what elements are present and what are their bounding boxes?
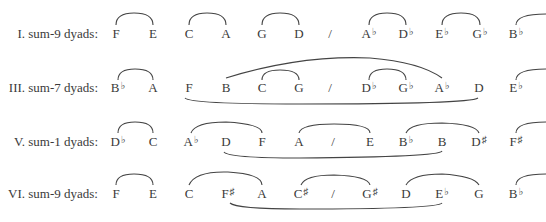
note-name: B♭ [111,80,125,96]
note-name: G [294,80,303,96]
row-label: I. sum-9 dyads: [0,26,98,42]
row-label: III. sum-7 dyads: [0,80,98,96]
note-name: C [185,26,194,42]
note-name: A [221,26,230,42]
arc-icon [116,13,153,25]
flat-icon: ♭ [518,186,523,197]
sharp-icon: ♯ [373,186,378,197]
arc-icon [118,69,153,80]
note-name: E [149,186,157,202]
row-III: III. sum-7 dyads: [0,80,546,120]
note-name: D [294,26,303,42]
flat-icon: ♭ [444,26,449,37]
note-name: G♯ [362,186,377,202]
note-name: B♭ [509,26,523,42]
note-name: D [401,186,410,202]
row-label: V. sum-1 dyads: [0,134,98,150]
flat-icon: ♭ [121,134,126,145]
note-name: D [474,80,483,96]
arc-icon [406,123,479,133]
separator-slash: / [331,186,335,202]
note-name: A♭ [183,134,198,150]
arc-icon [262,13,299,25]
note-name: G [474,186,483,202]
arc-icon [369,69,406,80]
flat-icon: ♭ [409,26,414,37]
sharp-icon: ♯ [230,186,235,197]
arc-icon [189,13,226,25]
flat-icon: ♭ [444,186,449,197]
note-name: D [221,134,230,150]
note-name: E♭ [435,186,449,202]
note-name: D♭ [398,26,413,42]
arc-icon [516,69,546,80]
arc-icon [516,14,546,25]
arc-icon [118,122,153,133]
flat-icon: ♭ [120,80,125,91]
arc-icon [191,122,262,133]
flat-icon: ♭ [409,80,414,91]
note-name: C [149,134,158,150]
row-V: V. sum-1 dyads: [0,134,546,174]
note-name: D♭ [110,134,125,150]
note-name: B♭ [509,186,523,202]
note-name: F♯ [221,186,234,202]
sharp-icon: ♯ [518,134,523,145]
arc-icon [262,70,299,80]
note-name: A [294,134,303,150]
sharp-icon: ♯ [482,134,487,145]
note-name: E♭ [435,26,449,42]
note-name: F [112,26,119,42]
separator-slash: / [328,80,332,96]
note-name: F [258,134,265,150]
separator-slash: / [328,26,332,42]
sharp-icon: ♯ [303,186,308,197]
flat-icon: ♭ [518,80,523,91]
note-name: D♯ [471,134,486,150]
flat-icon: ♭ [194,134,199,145]
arc-icon [442,13,480,25]
note-name: G♭ [472,26,487,42]
flat-icon: ♭ [408,134,413,145]
separator-slash: / [331,134,335,150]
note-name: B♭ [399,134,413,150]
note-name: A♭ [361,26,376,42]
arc-icon [369,13,406,25]
note-name: B [222,80,231,96]
note-name: A [257,186,266,202]
note-name: D♭ [361,80,376,96]
arc-icon [516,174,546,185]
row-I: I. sum-9 dyads: [0,26,546,66]
note-name: C [258,80,267,96]
arc-icon [406,174,479,185]
arc-icon [299,124,370,133]
arc-icon [301,175,370,185]
arc-icon [516,122,546,133]
note-name: G♭ [398,80,413,96]
note-name: A [148,80,157,96]
flat-icon: ♭ [372,26,377,37]
note-name: C [185,186,194,202]
flat-icon: ♭ [518,26,523,37]
note-name: F♯ [509,134,522,150]
flat-icon: ♭ [445,80,450,91]
note-name: E♭ [509,80,523,96]
note-name: B [438,134,447,150]
row-VI: VI. sum-9 dyads: [0,186,546,222]
note-name: E [149,26,157,42]
note-name: F [112,186,119,202]
note-name: E [366,134,374,150]
note-name: A♭ [434,80,449,96]
note-name: F [185,80,192,96]
arc-icon [116,174,153,185]
flat-icon: ♭ [483,26,488,37]
flat-icon: ♭ [372,80,377,91]
note-name: G [257,26,266,42]
row-label: VI. sum-9 dyads: [0,186,98,202]
note-name: C♯ [294,186,309,202]
